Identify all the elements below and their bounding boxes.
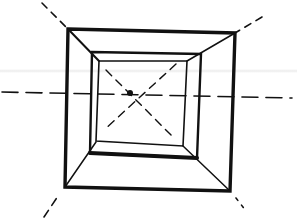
horizon-line	[2, 92, 292, 98]
inner-diagonal-b	[104, 64, 176, 130]
diagonal-line-bottom-right	[236, 198, 246, 211]
perspective-diagram	[0, 0, 297, 221]
diagonal-line-top-left	[42, 3, 68, 29]
middle-square-bottom-thick	[90, 153, 197, 158]
diagonal-line-top-right	[235, 17, 262, 33]
edge-bottom-right	[183, 146, 230, 191]
vanishing-point	[127, 90, 133, 96]
diagonal-line-bottom-left	[44, 196, 58, 217]
edge-bottom-left	[65, 142, 96, 187]
edge-top-right	[187, 33, 235, 61]
edge-top-left	[68, 29, 99, 61]
inner-diagonal-a	[106, 70, 172, 136]
